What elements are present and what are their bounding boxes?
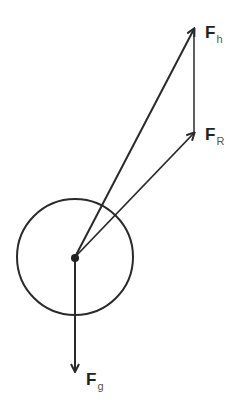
label-fh: Fh [205, 23, 223, 45]
label-fh-subscript: h [216, 33, 222, 45]
label-fh-symbol: F [205, 23, 215, 42]
center-point [71, 254, 79, 262]
vector-fr-line [75, 133, 194, 257]
label-fg: Fg [86, 370, 104, 392]
force-diagram: Fh FR Fg [0, 0, 236, 408]
vector-fh-line [75, 29, 194, 257]
label-fg-subscript: g [97, 380, 103, 392]
label-fr: FR [205, 125, 224, 147]
label-fg-symbol: F [86, 370, 96, 389]
label-fr-symbol: F [205, 125, 215, 144]
label-fr-subscript: R [216, 135, 224, 147]
